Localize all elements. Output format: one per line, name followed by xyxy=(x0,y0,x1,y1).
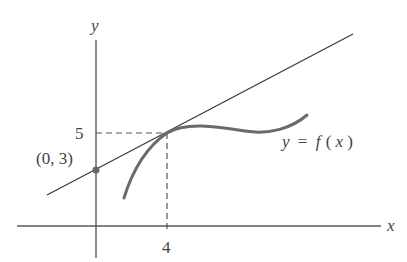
curve-label-x: x xyxy=(335,132,344,151)
x-tick-4-label: 4 xyxy=(162,238,171,257)
point-label: (0, 3) xyxy=(36,149,73,168)
function-curve xyxy=(124,115,307,198)
curve-label-f: f xyxy=(316,132,323,151)
y-axis-label: y xyxy=(89,16,99,35)
curve-label-close: ) xyxy=(347,132,353,151)
y-tick-5-label: 5 xyxy=(75,124,84,143)
x-axis-label: x xyxy=(386,216,395,235)
y-intercept-point xyxy=(93,167,100,174)
tangent-line-diagram: x y 5 4 (0, 3) y = f ( x ) xyxy=(0,0,407,262)
curve-label: y = f ( x ) xyxy=(280,132,353,151)
curve-label-eq: = xyxy=(298,132,308,151)
curve-label-open: ( xyxy=(326,132,332,151)
curve-label-lhs: y xyxy=(280,132,290,151)
